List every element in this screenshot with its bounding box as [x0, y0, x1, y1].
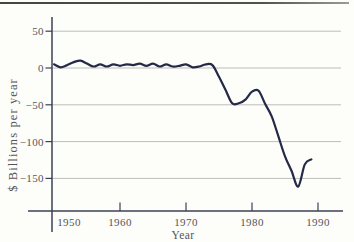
trade-balance-line	[54, 61, 311, 187]
y-tick-label: −50	[4, 98, 44, 112]
y-tick-label: 0	[4, 61, 44, 75]
y-tick-label: −150	[4, 171, 44, 185]
x-tick-label: 1950	[57, 215, 81, 229]
x-axis-title: Year	[172, 229, 195, 242]
x-tick-label: 1960	[108, 215, 132, 229]
x-tick-label: 1970	[174, 215, 198, 229]
y-tick-label: −100	[4, 135, 44, 149]
chart: $ Billions per year 50 0 −50 −100 −150 1…	[0, 0, 354, 242]
x-tick-label: 1990	[306, 215, 330, 229]
y-tick-label: 50	[4, 24, 44, 38]
plot-svg	[0, 0, 354, 242]
x-tick-label: 1980	[240, 215, 264, 229]
